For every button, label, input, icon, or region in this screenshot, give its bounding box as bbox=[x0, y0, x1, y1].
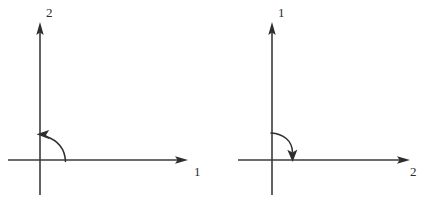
diagram-panel-right: 1 2 bbox=[213, 0, 426, 201]
vertical-axis-label: 2 bbox=[46, 6, 53, 19]
horizontal-axis-label: 1 bbox=[194, 165, 201, 178]
horizontal-axis-label: 2 bbox=[410, 165, 417, 178]
diagram-panel-left: 2 1 bbox=[0, 0, 213, 201]
panel-right-canvas bbox=[213, 0, 426, 201]
rotation-arc-path bbox=[271, 133, 293, 152]
rotation-arc-path bbox=[46, 136, 66, 161]
panel-left-canvas bbox=[0, 0, 213, 201]
rotation-arc-arrowhead-icon bbox=[37, 130, 50, 139]
axis-diagram-figure: 2 1 1 2 bbox=[0, 0, 426, 201]
vertical-axis-label: 1 bbox=[278, 6, 285, 19]
